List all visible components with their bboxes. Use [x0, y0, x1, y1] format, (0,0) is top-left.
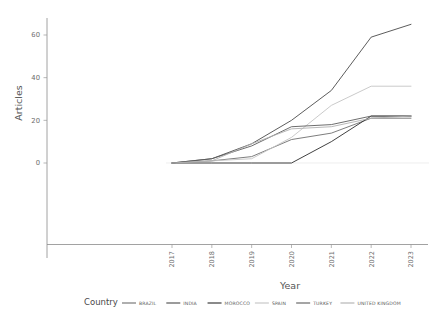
- y-axis-title: Articles: [13, 85, 24, 120]
- legend-title: Country: [84, 297, 118, 307]
- legend-label-turkey[interactable]: TURKEY: [312, 301, 332, 306]
- series-line-india: [172, 24, 411, 163]
- x-tick-label: 2021: [328, 251, 336, 268]
- x-tick-label: 2022: [368, 251, 376, 268]
- x-axis-title: Year: [279, 280, 300, 291]
- legend-label-brazil[interactable]: BRAZIL: [139, 301, 157, 306]
- y-tick-label: 0: [36, 159, 40, 167]
- y-tick-label: 20: [31, 117, 40, 125]
- x-tick-label: 2017: [168, 251, 176, 268]
- y-tick-label: 40: [31, 74, 40, 82]
- line-chart: 0204060Articles2017201820192020202120222…: [0, 0, 433, 326]
- x-tick-label: 2020: [288, 251, 296, 268]
- x-tick-label: 2023: [407, 251, 415, 268]
- legend-label-morocco[interactable]: MOROCCO: [225, 301, 251, 306]
- y-tick-label: 60: [31, 31, 40, 39]
- series-line-brazil: [172, 118, 411, 163]
- legend-label-india[interactable]: INDIA: [183, 301, 197, 306]
- chart-canvas: 0204060Articles2017201820192020202120222…: [0, 0, 433, 326]
- x-tick-label: 2018: [208, 251, 216, 268]
- series-line-spain: [172, 86, 411, 163]
- x-tick-label: 2019: [248, 251, 256, 268]
- legend-label-spain[interactable]: SPAIN: [272, 301, 286, 306]
- legend-label-united-kingdom[interactable]: UNITED KINGDOM: [357, 301, 400, 306]
